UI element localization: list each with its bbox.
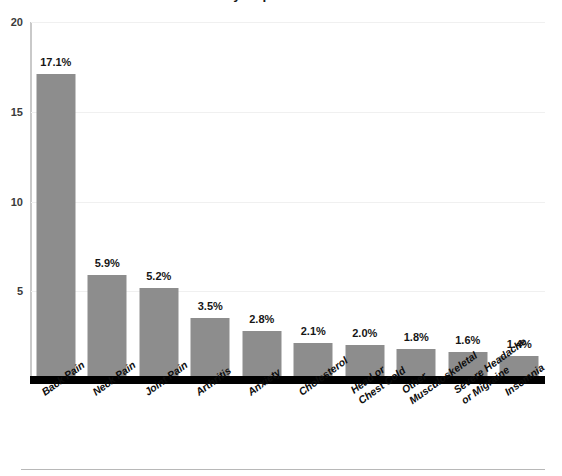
x-axis-category-labels: Back PainNeck PainJoint PainArthritisAnx… <box>30 384 545 464</box>
page-title: Most Commonly Reported Health Conditions <box>0 0 562 3</box>
bar-slot: 2.0% <box>339 22 391 381</box>
bar-value-label: 17.1% <box>40 56 71 68</box>
y-axis-tick-label: 15 <box>11 106 23 118</box>
bar-value-label: 3.5% <box>198 300 223 312</box>
bar-series: 17.1%5.9%5.2%3.5%2.8%2.1%2.0%1.8%1.6%1.4… <box>30 22 545 381</box>
bar-slot: 5.2% <box>133 22 185 381</box>
bar-value-label: 2.0% <box>352 327 377 339</box>
footer-divider <box>21 469 545 470</box>
bar-slot: 2.8% <box>236 22 288 381</box>
bar-slot: 3.5% <box>185 22 237 381</box>
bar-slot: 2.1% <box>288 22 340 381</box>
bar-value-label: 1.8% <box>404 331 429 343</box>
y-axis-tick-label: 10 <box>11 196 23 208</box>
bar-slot: 17.1% <box>30 22 82 381</box>
y-axis-tick-label: 20 <box>11 16 23 28</box>
chart-page: Most Commonly Reported Health Conditions… <box>0 0 562 476</box>
bar-value-label: 5.2% <box>146 270 171 282</box>
bar-slot: 1.4% <box>494 22 546 381</box>
bar-value-label: 2.8% <box>249 313 274 325</box>
bar-slot: 5.9% <box>82 22 134 381</box>
bar-value-label: 5.9% <box>95 257 120 269</box>
bar-slot: 1.8% <box>391 22 443 381</box>
chart-title-clipped: Most Commonly Reported Health Conditions <box>0 0 562 3</box>
plot-area: 2015105 17.1%5.9%5.2%3.5%2.8%2.1%2.0%1.8… <box>30 22 545 381</box>
bar-value-label: 2.1% <box>301 325 326 337</box>
bar[interactable] <box>36 74 75 381</box>
y-axis-tick-label: 5 <box>17 285 23 297</box>
bar-slot: 1.6% <box>442 22 494 381</box>
